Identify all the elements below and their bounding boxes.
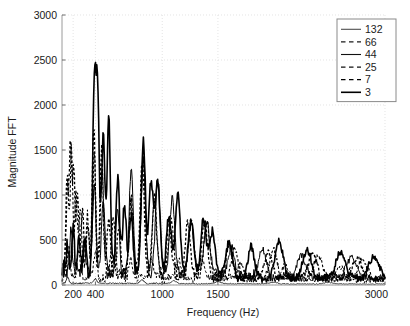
legend-label-7: 7 [365, 73, 371, 85]
legend-label-25: 25 [365, 61, 377, 73]
legend-label-3: 3 [365, 86, 371, 98]
x-tick-label: 3000 [365, 288, 389, 300]
x-axis-title: Frequency (Hz) [187, 306, 259, 318]
y-tick-label: 1000 [34, 189, 58, 201]
fft-spectrum-figure: 200400100015003000 050010001500200025003… [0, 0, 410, 326]
y-tick-label: 2000 [34, 99, 58, 111]
y-tick-label: 2500 [34, 54, 58, 66]
x-tick-label: 1000 [151, 288, 175, 300]
y-axis-title: Magnitude FFT [6, 116, 18, 188]
x-tick-label: 1500 [206, 288, 230, 300]
legend[interactable]: 13266442573 [337, 19, 396, 102]
y-tick-label: 500 [39, 234, 57, 246]
legend-label-132: 132 [365, 23, 383, 35]
x-tick-label: 400 [87, 288, 105, 300]
x-tick-label: 200 [64, 288, 82, 300]
legend-label-44: 44 [365, 48, 377, 60]
y-tick-label: 1500 [34, 144, 58, 156]
chart-canvas: 200400100015003000 050010001500200025003… [0, 0, 410, 326]
y-tick-label: 3000 [34, 9, 58, 21]
legend-label-66: 66 [365, 36, 377, 48]
y-tick-label: 0 [51, 279, 57, 291]
